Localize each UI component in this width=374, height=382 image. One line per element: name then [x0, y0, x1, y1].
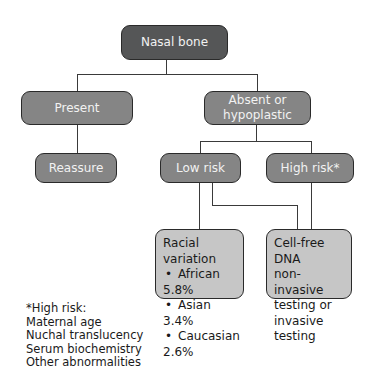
testing-line-2: non-invasive: [274, 267, 344, 298]
connector-absent-down: [256, 124, 257, 142]
connector-low-risk-racial: [199, 182, 200, 229]
footnote-item: Nuchal translucency: [26, 329, 143, 343]
racial-variation-list: African 5.8% Asian 3.4% Caucasian 2.6%: [163, 267, 240, 360]
node-label: Reassure: [49, 161, 104, 176]
node-nasal-bone: Nasal bone: [121, 25, 228, 60]
footnote-item: Other abnormalities: [26, 356, 143, 370]
connector-low-risk-testing-b: [297, 205, 298, 229]
connector-high-risk-testing: [311, 182, 312, 229]
connector-to-present: [77, 74, 78, 92]
node-label-line2: hypoplastic: [223, 108, 292, 123]
racial-item-caucasian: Caucasian 2.6%: [163, 329, 240, 360]
node-low-risk: Low risk: [160, 153, 241, 183]
node-label: Low risk: [176, 161, 225, 176]
testing-line-3: testing or: [274, 298, 344, 314]
node-label: High risk*: [281, 161, 340, 176]
node-racial-variation: Racial variation African 5.8% Asian 3.4%…: [155, 229, 244, 299]
footnote-item: Serum biochemistry: [26, 343, 143, 357]
footnote-high-risk: *High risk: Maternal age Nuchal transluc…: [26, 302, 143, 370]
racial-item-african: African 5.8%: [163, 267, 240, 298]
node-reassure: Reassure: [35, 153, 117, 183]
node-label-line1: Absent or: [229, 93, 287, 108]
connector-to-absent: [257, 74, 258, 92]
node-label: Present: [54, 101, 99, 116]
node-label: Nasal bone: [141, 35, 208, 50]
racial-variation-title: Racial variation: [163, 236, 240, 267]
connector-low-risk-testing-h: [212, 205, 298, 206]
testing-line-1: Cell-free DNA: [274, 236, 344, 267]
footnote-item: Maternal age: [26, 316, 143, 330]
connector-root-down: [166, 59, 167, 75]
connector-present-reassure: [77, 124, 78, 154]
connector-low-risk-testing-a: [212, 182, 213, 206]
connector-absent-horizontal: [200, 141, 311, 142]
testing-line-4: invasive testing: [274, 314, 344, 345]
footnote-title: *High risk:: [26, 302, 143, 316]
node-high-risk: High risk*: [266, 153, 354, 183]
node-present: Present: [21, 91, 133, 125]
connector-root-horizontal: [77, 74, 258, 75]
node-absent-hypoplastic: Absent or hypoplastic: [204, 91, 311, 125]
node-testing: Cell-free DNA non-invasive testing or in…: [266, 229, 352, 299]
racial-item-asian: Asian 3.4%: [163, 298, 240, 329]
